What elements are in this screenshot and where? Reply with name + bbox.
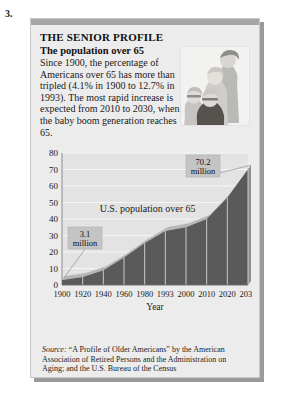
x-axis-title: Year <box>146 302 164 312</box>
x-tick-label: 1993 <box>157 289 174 299</box>
x-tick-label: 2030 <box>240 289 253 299</box>
figure-box: THE SENIOR PROFILE The population over 6… <box>30 18 260 378</box>
start-callout-unit: million <box>73 238 98 248</box>
y-tick-label: 30 <box>49 231 59 241</box>
seniors-photo <box>180 46 250 126</box>
x-tick-label: 1920 <box>74 289 91 299</box>
source-note: Source: “A Profile of Older Americans” b… <box>42 345 248 374</box>
x-tick-label: 2010 <box>198 289 215 299</box>
x-tick-label: 1940 <box>95 289 112 299</box>
y-tick-label: 70 <box>49 165 59 175</box>
x-tick-label: 1960 <box>116 289 133 299</box>
figure-headline: THE SENIOR PROFILE <box>40 31 252 44</box>
y-tick-label: 60 <box>49 181 59 191</box>
figure-blurb: Since 1900, the percentage of Americans … <box>40 57 182 138</box>
y-tick-label: 80 <box>49 148 59 158</box>
y-tick-label: 20 <box>49 247 59 257</box>
source-prefix: Source: <box>42 345 67 354</box>
item-number: 3. <box>5 8 13 19</box>
series-label: U.S. population over 65 <box>100 203 196 214</box>
source-text: “A Profile of Older Americans” by the Am… <box>42 345 226 373</box>
x-tick-label: 1980 <box>136 289 153 299</box>
population-area-chart: 0102030405060708019001920194019601980199… <box>40 147 252 319</box>
y-tick-label: 10 <box>49 264 59 274</box>
x-tick-label: 1900 <box>54 289 71 299</box>
x-tick-label: 2000 <box>178 289 195 299</box>
y-tick-label: 50 <box>49 198 59 208</box>
y-tick-label: 40 <box>49 214 59 224</box>
end-callout-unit: million <box>191 166 216 176</box>
x-tick-label: 2020 <box>219 289 236 299</box>
